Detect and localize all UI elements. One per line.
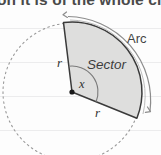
figure-page: on it is of the whole cir Arc Sector r r… xyxy=(0,0,161,155)
radius-bottom-label: r xyxy=(95,105,100,121)
sector-label: Sector xyxy=(87,57,126,72)
radius-left-label: r xyxy=(57,55,62,71)
arc-label: Arc xyxy=(127,31,147,46)
arc-arrowhead-end-icon xyxy=(145,107,150,112)
arc-arrowhead-start-icon xyxy=(63,12,67,17)
center-vertex-dot xyxy=(69,89,74,94)
angle-label: x xyxy=(79,77,85,92)
